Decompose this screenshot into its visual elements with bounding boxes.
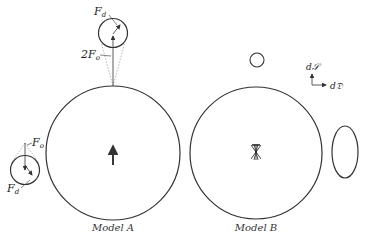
- model-a-left-fd-arrow: [25, 165, 32, 175]
- label-top-fd: Fd: [93, 5, 107, 19]
- label-left-fd: Fd: [6, 182, 20, 196]
- leader-top-fd: [109, 15, 117, 25]
- axis-horizontal-label: d𝔇: [330, 81, 344, 91]
- caption-model-a: Model A: [91, 222, 134, 233]
- leader-top-2fo: [100, 55, 111, 56]
- caption-model-b: Model B: [234, 222, 277, 233]
- model-a-top-cone-left: [101, 42, 113, 86]
- model-a-top-fd-arrow: [113, 25, 120, 34]
- model-b-center-burst-icon: [251, 144, 261, 160]
- model-a-left-cone-left: [12, 143, 25, 162]
- diagram-canvas: Fd 2Fo Fo Fd Model A d𝒮 d𝔇 Model B: [0, 0, 365, 239]
- axis-indicator: d𝒮 d𝔇: [306, 62, 344, 91]
- label-left-fo: Fo: [31, 136, 44, 150]
- axis-vertical-label: d𝒮: [306, 62, 322, 72]
- model-b-right-ellipse: [332, 126, 358, 178]
- label-top-2fo: 2Fo: [80, 48, 100, 62]
- model-a-top-cone-right: [113, 42, 125, 86]
- model-b-top-small-circle: [250, 53, 264, 67]
